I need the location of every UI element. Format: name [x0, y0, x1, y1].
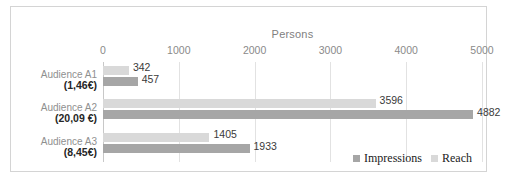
x-tick-label: 5000	[470, 44, 493, 56]
bar-reach[interactable]	[103, 99, 376, 108]
chart-legend: ImpressionsReach	[353, 151, 472, 166]
x-tick-label: 2000	[243, 44, 266, 56]
bar-value-label: 4882	[477, 106, 500, 118]
category-label: Audience A2(20,09 €)	[11, 102, 97, 124]
legend-label: Reach	[442, 151, 472, 166]
bar-reach[interactable]	[103, 133, 209, 142]
x-tick-label: 3000	[319, 44, 342, 56]
category-label: Audience A1(1,46€)	[11, 69, 97, 91]
plot-area: 3424573596488214051933	[103, 62, 482, 162]
bar-group: 35964882	[103, 95, 482, 128]
bar-group: 342457	[103, 62, 482, 95]
legend-swatch-icon	[353, 155, 360, 162]
bar-impressions[interactable]	[103, 77, 138, 86]
legend-label: Impressions	[364, 151, 422, 166]
bar-value-label: 457	[142, 73, 160, 85]
category-cost: (20,09 €)	[11, 113, 97, 124]
x-tick-label: 4000	[395, 44, 418, 56]
category-label: Audience A3(8,45€)	[11, 136, 97, 158]
bar-value-label: 1933	[254, 140, 277, 152]
bar-reach[interactable]	[103, 66, 129, 75]
bar-impressions[interactable]	[103, 144, 250, 153]
category-name: Audience A3	[11, 136, 97, 147]
chart-container: Persons 010002000300040005000 3424573596…	[10, 6, 487, 172]
legend-item[interactable]: Impressions	[353, 151, 422, 166]
x-axis-tick-labels: 010002000300040005000	[11, 44, 505, 58]
y-axis-category-labels: Audience A1(1,46€)Audience A2(20,09 €)Au…	[11, 62, 101, 162]
x-tick-label: 1000	[167, 44, 190, 56]
x-axis-title: Persons	[103, 28, 482, 40]
category-cost: (8,45€)	[11, 147, 97, 158]
bar-value-label: 3596	[380, 94, 403, 106]
legend-swatch-icon	[431, 155, 438, 162]
x-tick-label: 0	[100, 44, 106, 56]
category-cost: (1,46€)	[11, 80, 97, 91]
bar-value-label: 342	[133, 61, 151, 73]
legend-item[interactable]: Reach	[431, 151, 472, 166]
bar-value-label: 1405	[213, 128, 236, 140]
bar-impressions[interactable]	[103, 110, 473, 119]
